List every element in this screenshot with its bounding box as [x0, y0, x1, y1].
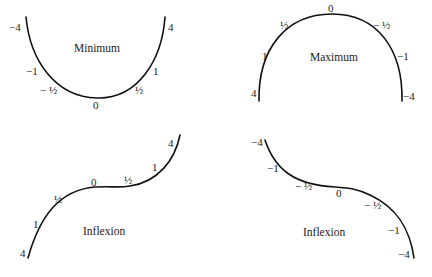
minimum-label-right-low: ½ [135, 85, 143, 96]
maximum-label-right-bottom: −4 [403, 91, 415, 102]
inflexion-rising-curve [28, 135, 180, 258]
maximum-label-left-bottom: 4 [251, 88, 257, 99]
minimum-title: Minimum [74, 43, 120, 55]
inflexion-rising-label-high: 1 [152, 162, 158, 173]
curves-canvas [0, 0, 432, 277]
minimum-label-right-mid: 1 [153, 66, 159, 77]
inflexion-falling-label-center: 0 [336, 188, 342, 199]
stationary-points-diagram: Minimum −4 −1 − ½ 0 ½ 1 4 Maximum 4 1 ½ … [0, 0, 432, 277]
maximum-label-right-high: − ½ [373, 20, 390, 31]
inflexion-falling-label-mid-low: − ½ [364, 200, 381, 211]
inflexion-rising-label-mid-low: ½ [54, 194, 62, 205]
maximum-label-left-mid: 1 [262, 51, 268, 62]
inflexion-falling-label-low: −1 [388, 225, 400, 236]
inflexion-falling-label-mid-high: − ½ [295, 181, 312, 192]
inflexion-falling-label-top: −4 [251, 137, 263, 148]
maximum-label-top: 0 [328, 3, 334, 14]
inflexion-rising-label-top: 4 [168, 138, 174, 149]
inflexion-rising-label-bottom: 4 [20, 248, 26, 259]
minimum-label-right-top: 4 [168, 22, 174, 33]
minimum-label-bottom: 0 [93, 100, 99, 111]
inflexion-falling-label-bottom: −4 [398, 249, 410, 260]
maximum-title: Maximum [310, 52, 358, 64]
inflexion-falling-label-high: −1 [267, 163, 279, 174]
maximum-label-left-high: ½ [280, 20, 288, 31]
inflexion-rising-title: Inflexion [83, 226, 125, 238]
minimum-label-left-mid: −1 [26, 66, 38, 77]
inflexion-rising-label-mid-high: ½ [124, 175, 132, 186]
minimum-label-left-top: −4 [9, 22, 21, 33]
minimum-label-left-low: − ½ [40, 85, 57, 96]
inflexion-falling-title: Inflexion [303, 227, 345, 239]
maximum-label-right-mid: −1 [397, 51, 409, 62]
inflexion-rising-label-low: 1 [33, 219, 39, 230]
inflexion-rising-label-center: 0 [91, 177, 97, 188]
inflexion-falling-curve [265, 140, 414, 258]
